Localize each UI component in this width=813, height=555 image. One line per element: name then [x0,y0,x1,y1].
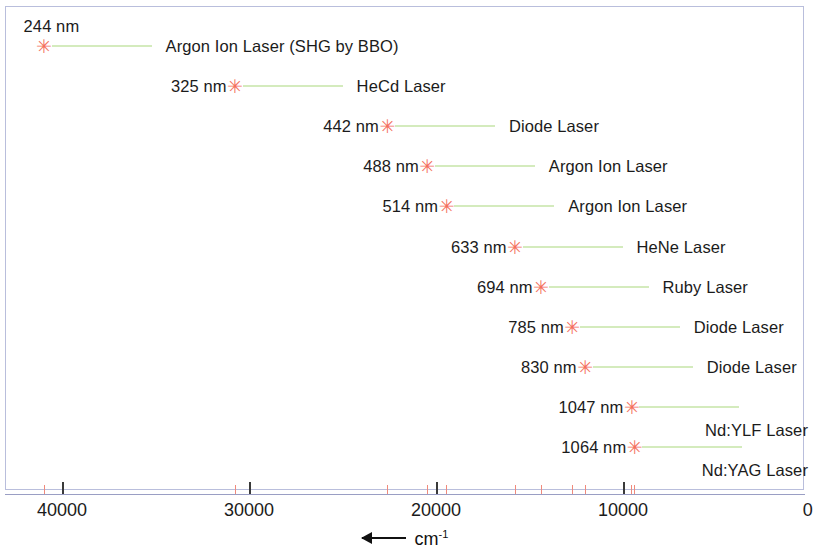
x-axis-tick [436,482,438,494]
laser-name-label: Diode Laser [509,117,599,136]
laser-axis-tick [515,485,516,494]
wavelength-label: 785 nm [508,317,564,336]
laser-axis-tick [585,485,586,494]
laser-row: 830 nm✳Diode Laser [585,354,586,380]
leader-line [593,366,693,367]
x-axis-tick [249,482,251,494]
laser-name-label: HeNe Laser [637,237,726,256]
laser-row: 633 nm✳HeNe Laser [515,234,516,260]
x-axis-tick-label: 40000 [37,500,87,521]
x-axis-tick-label: 0 [803,500,813,521]
wavelength-label: 325 nm [171,77,227,96]
wavelength-label: 633 nm [451,237,507,256]
laser-row: 694 nm✳Ruby Laser [541,274,542,300]
laser-row: 442 nm✳Diode Laser [387,113,388,139]
laser-axis-tick [44,485,45,494]
laser-row: 1064 nm✳Nd:YAG Laser [634,434,635,460]
x-axis-title-text: cm [415,529,439,549]
laser-name-label: Diode Laser [707,357,797,376]
leader-line [639,406,739,407]
x-axis-tick-label: 10000 [598,500,648,521]
laser-axis-tick [572,485,573,494]
laser-name-label: Nd:YLF Laser [705,421,808,440]
leader-line [435,166,535,167]
wavelength-label: 442 nm [323,117,379,136]
wavelength-label: 488 nm [363,157,419,176]
leader-line [580,326,680,327]
x-axis-title: cm-1 [0,528,810,550]
wavelength-label: 244 nm [24,17,80,36]
x-axis-tick [62,482,64,494]
laser-row: 244 nm✳Argon Ion Laser (SHG by BBO) [44,33,45,59]
x-axis-tick-label: 30000 [224,500,274,521]
leader-line [642,447,742,448]
laser-row: 785 nm✳Diode Laser [572,314,573,340]
laser-row: 1047 nm✳Nd:YLF Laser [631,394,632,420]
wavelength-label: 1064 nm [561,438,626,457]
laser-name-label: Diode Laser [694,317,784,336]
laser-axis-tick [427,485,428,494]
laser-row: 488 nm✳Argon Ion Laser [427,153,428,179]
laser-axis-tick [446,485,447,494]
wavelength-label: 1047 nm [558,397,623,416]
leader-line [549,286,649,287]
x-axis-tick [623,482,625,494]
leader-line [523,246,623,247]
leader-line [395,126,495,127]
leader-line [454,206,554,207]
x-axis-line [5,494,805,495]
laser-axis-tick [634,485,635,494]
laser-axis-tick [541,485,542,494]
laser-axis-tick [235,485,236,494]
leader-line [243,86,343,87]
leader-line [52,46,152,47]
x-axis-tick-label: 20000 [411,500,461,521]
laser-row: 325 nm✳HeCd Laser [235,73,236,99]
wavelength-label: 514 nm [383,197,439,216]
laser-name-label: Argon Ion Laser [549,157,668,176]
laser-name-label: HeCd Laser [357,77,446,96]
laser-axis-tick [387,485,388,494]
laser-axis-tick [631,485,632,494]
x-axis-title-exponent: -1 [439,528,449,540]
laser-name-label: Ruby Laser [663,277,748,296]
laser-name-label: Argon Ion Laser [568,197,687,216]
wavelength-label: 830 nm [521,357,577,376]
left-arrow-icon [362,537,406,539]
laser-name-label: Nd:YAG Laser [702,461,808,480]
laser-row: 514 nm✳Argon Ion Laser [446,193,447,219]
wavelength-label: 694 nm [477,277,533,296]
laser-name-label: Argon Ion Laser (SHG by BBO) [166,37,399,56]
